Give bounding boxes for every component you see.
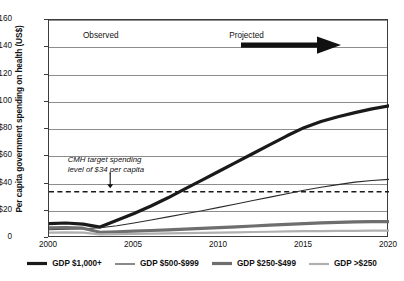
legend-label: GDP $500-$999 xyxy=(140,259,199,268)
chart-legend: GDP $1,000+GDP $500-$999GDP $250-$499GDP… xyxy=(0,259,404,268)
x-axis-tick-label: 2015 xyxy=(294,240,312,249)
x-axis-tick-label: 2000 xyxy=(39,240,57,249)
chart-figure: Per capita government spending on health… xyxy=(0,0,404,281)
y-axis-tick-label: $20 xyxy=(0,205,12,214)
y-axis-tick-label: 0 xyxy=(0,232,12,241)
y-axis-tick-label: $60 xyxy=(0,150,12,159)
series-lines xyxy=(49,20,389,238)
y-axis-tick-label: $100 xyxy=(0,96,12,105)
legend-swatch-icon xyxy=(212,261,232,266)
y-axis-tick-label: $160 xyxy=(0,14,12,23)
series-line-1 xyxy=(49,106,389,227)
y-axis-tick-label: $40 xyxy=(0,178,12,187)
legend-item[interactable]: GDP $500-$999 xyxy=(115,259,199,268)
legend-swatch-icon xyxy=(115,262,135,266)
y-axis-tick-label: $140 xyxy=(0,41,12,50)
legend-item[interactable]: GDP $250-$499 xyxy=(212,259,296,268)
y-axis-title: Per capita government spending on health… xyxy=(14,4,24,234)
plot-area: Observed Projected CMH target spending l… xyxy=(48,19,388,237)
legend-swatch-icon xyxy=(27,261,47,266)
y-axis-tick-label: $120 xyxy=(0,69,12,78)
legend-swatch-icon xyxy=(309,262,329,266)
legend-label: GDP $1,000+ xyxy=(52,259,102,268)
y-axis-tick-mark xyxy=(44,237,48,238)
legend-label: GDP $250-$499 xyxy=(237,259,296,268)
legend-item[interactable]: GDP >$250 xyxy=(309,259,377,268)
x-axis-tick-label: 2010 xyxy=(209,240,227,249)
x-axis-tick-label: 2020 xyxy=(379,240,397,249)
y-axis-tick-label: $80 xyxy=(0,123,12,132)
legend-item[interactable]: GDP $1,000+ xyxy=(27,259,102,268)
legend-label: GDP >$250 xyxy=(334,259,377,268)
x-axis-tick-label: 2005 xyxy=(124,240,142,249)
